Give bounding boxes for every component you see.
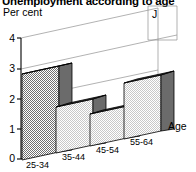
bar-55-64 [124,71,174,139]
y-tick-label-3: 3 [3,63,15,74]
y-axis [17,38,21,159]
y-tick-label-4: 4 [3,33,15,44]
y-tick-label-2: 2 [3,94,15,105]
legend-series-label: J [152,8,157,20]
x-tick-label-45-54: 45-54 [96,145,119,155]
y-tick-label-0: 0 [3,153,15,164]
x-axis-name-label: Age [168,120,187,132]
x-tick-label-25-34: 25-34 [26,160,49,170]
x-tick-label-35-44: 35-44 [62,152,85,162]
y-tick-label-1: 1 [3,124,15,135]
x-tick-label-55-64: 55-64 [130,137,153,147]
chart-container: Unemployment according to age Per cent [0,0,196,172]
